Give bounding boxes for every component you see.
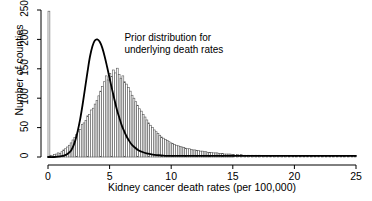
y-axis-tick-label: 150 (19, 52, 30, 82)
y-axis-tick-label: 200 (19, 23, 30, 53)
y-axis-tick-label: 100 (19, 82, 30, 112)
prior-distribution-annotation: Prior distribution forunderlying death r… (124, 32, 223, 56)
y-axis-tick-label: 250 (19, 0, 30, 24)
plot-area (0, 0, 372, 201)
annotation-line: Prior distribution for (124, 32, 223, 44)
x-axis-tick-label: 0 (45, 170, 51, 182)
x-axis-tick-label: 15 (227, 170, 239, 182)
x-axis-label: Kidney cancer death rates (per 100,000) (48, 181, 356, 193)
x-axis-tick-label: 20 (289, 170, 301, 182)
histogram-bar (48, 11, 50, 157)
y-axis-tick-label: 50 (19, 111, 30, 141)
x-axis-tick-label: 5 (107, 170, 113, 182)
y-axis-tick-label: 0 (19, 141, 30, 171)
x-axis-tick-label: 10 (165, 170, 177, 182)
annotation-line: underlying death rates (124, 44, 223, 56)
x-axis-tick-label: 25 (350, 170, 362, 182)
kidney-cancer-death-rates-chart: Number of counties Kidney cancer death r… (0, 0, 372, 201)
